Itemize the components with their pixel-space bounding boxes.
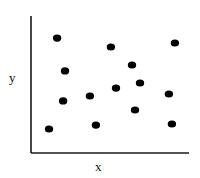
data-point bbox=[131, 106, 139, 113]
data-point bbox=[107, 43, 115, 50]
scatter-plot bbox=[0, 0, 200, 178]
data-point bbox=[61, 67, 69, 74]
data-point bbox=[59, 97, 67, 104]
data-point bbox=[165, 90, 173, 97]
data-point bbox=[128, 61, 136, 68]
data-point bbox=[168, 120, 176, 127]
x-axis-label: x bbox=[95, 160, 102, 173]
data-point bbox=[53, 35, 61, 42]
data-point bbox=[171, 39, 179, 46]
y-axis-label: y bbox=[9, 71, 16, 84]
data-point bbox=[136, 79, 144, 86]
data-point bbox=[92, 122, 100, 129]
data-point bbox=[45, 125, 53, 132]
data-points bbox=[45, 35, 179, 133]
data-point bbox=[112, 85, 120, 92]
data-point bbox=[86, 92, 94, 99]
